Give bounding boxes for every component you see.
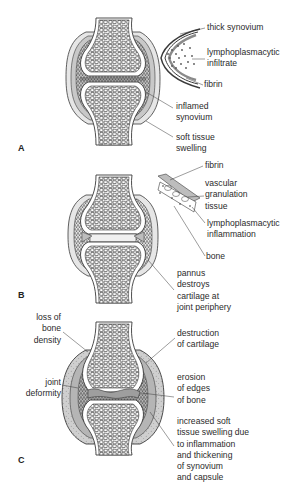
- panel-b-joint: [68, 175, 158, 303]
- label-thick-synovium: thick synovium: [207, 22, 263, 33]
- panel-letter-b: B: [18, 290, 25, 300]
- label-erosion-of-edges: erosion of edges of bone: [177, 372, 210, 406]
- label-vascular-granulation-tissue: vascular granulation tissue: [205, 178, 248, 212]
- leader-soft-tissue-swelling: [146, 121, 173, 137]
- panel-letter-a: A: [18, 143, 25, 153]
- label-increased-swelling: increased soft tissue swelling due to in…: [177, 416, 249, 484]
- joint-illustrations: [0, 0, 296, 493]
- label-destruction-of-cartilage: destruction of cartilage: [177, 328, 219, 351]
- label-lymphoplasmacytic-infiltrate: lymphoplasmacytic infiltrate: [207, 47, 280, 70]
- panel-a-inset: [161, 28, 205, 88]
- label-fibrin-b: fibrin: [205, 160, 224, 171]
- label-lymphoplasmacytic-inflammation: lymphoplasmacytic inflammation: [207, 218, 280, 241]
- panel-letter-c: C: [18, 455, 25, 465]
- label-joint-deformity: joint deformity: [26, 377, 61, 400]
- label-loss-of-bone-density: loss of bone density: [34, 312, 61, 346]
- label-inflamed-synovium: inflamed synovium: [176, 101, 212, 124]
- panel-a-joint: [66, 18, 160, 145]
- label-soft-tissue-swelling: soft tissue swelling: [176, 132, 215, 155]
- label-pannus: pannus destroys cartilage at joint perip…: [177, 268, 231, 313]
- panel-c-joint: [62, 322, 164, 455]
- label-fibrin-a: fibrin: [204, 79, 223, 90]
- label-bone: bone: [206, 251, 225, 262]
- panel-b-inset: [158, 166, 205, 256]
- leader-pannus: [148, 260, 174, 290]
